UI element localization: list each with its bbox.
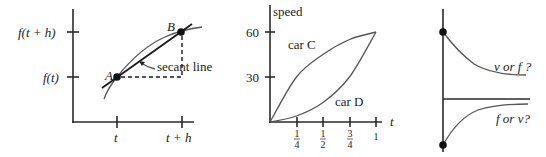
x-tick-label-half-den: 2 [321, 139, 326, 150]
y-tick-label-lower: f(t) [43, 70, 59, 85]
car-c-label-text: car C [288, 37, 316, 52]
point-a-label: A [104, 68, 113, 83]
point-b-marker [177, 28, 185, 36]
car-d-label: car D [335, 94, 364, 109]
x-axis-label: t [390, 114, 394, 129]
y-tick-label-upper: f(t + h) [18, 25, 56, 40]
x-tick-label-right: t + h [166, 130, 191, 145]
x-tick-label-quarter-den: 4 [295, 139, 300, 150]
y-tick-label-60: 60 [246, 25, 259, 40]
upper-start-dot [439, 28, 447, 36]
x-tick-label-one: 1 [374, 131, 379, 142]
x-tick-label-left: t [114, 130, 118, 145]
lower-curve-label: f or v? [496, 111, 530, 126]
y-axis-label: speed [273, 4, 303, 19]
y-tick-label-30: 30 [246, 70, 259, 85]
x-tick-label-three-quarters-den: 4 [348, 139, 353, 150]
lower-start-dot [439, 141, 447, 149]
speed-panel: speed t 60 30 1 4 1 2 3 4 1 car C car D [246, 4, 394, 150]
point-a-marker [113, 73, 121, 81]
x-tick-label-quarter-num: 1 [295, 128, 300, 139]
figure: f(t + h) f(t) t t + h A B secant line sp… [0, 0, 546, 157]
x-tick-label-half-num: 1 [321, 128, 326, 139]
secant-panel: f(t + h) f(t) t t + h A B secant line [18, 9, 212, 145]
x-tick-label-three-quarters-num: 3 [348, 128, 353, 139]
point-b-label: B [167, 19, 175, 34]
decay-panel: v or f ? f or v? [439, 9, 531, 152]
upper-curve-label: v or f ? [494, 59, 532, 74]
secant-line-label: secant line [157, 59, 212, 74]
car-d-label-text: car D [335, 94, 364, 109]
car-c-label: car C [288, 37, 316, 52]
